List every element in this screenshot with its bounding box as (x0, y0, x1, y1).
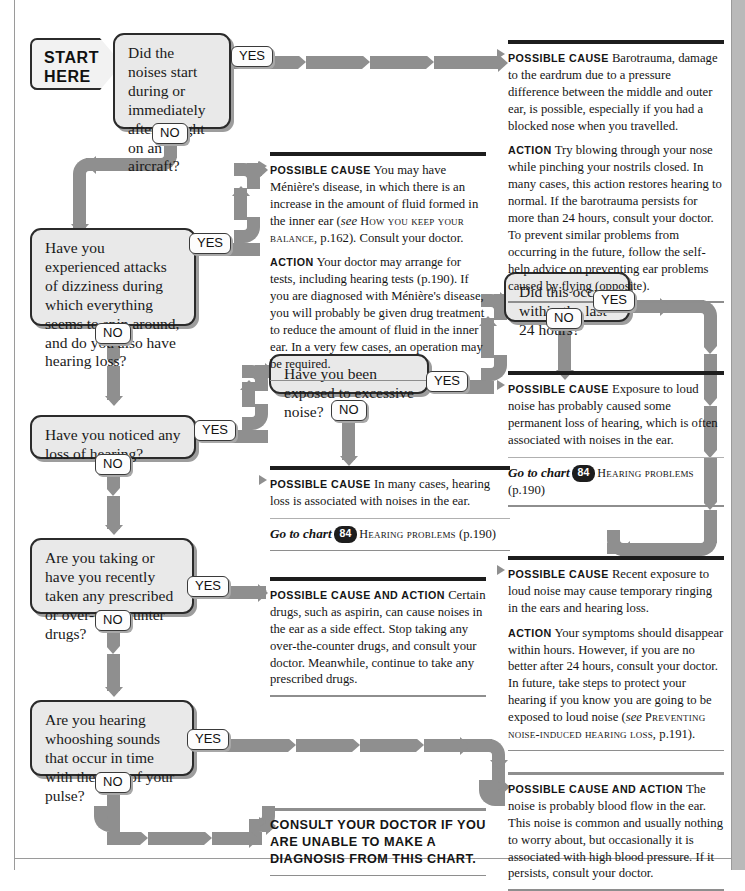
question-box-whooshing[interactable]: Are you hearing whooshing sounds that oc… (30, 700, 194, 776)
connector-q6-no (342, 418, 355, 460)
connector-notch (106, 646, 120, 654)
action-text: Try blowing through your nose while pinc… (508, 143, 722, 292)
connector-arrowhead (249, 830, 259, 848)
answer-label: YES (434, 373, 460, 388)
connector-arrowhead (105, 525, 123, 535)
question-box-flight[interactable]: Did the noises start during or immediate… (113, 33, 231, 129)
block-rule-mid (508, 457, 724, 458)
block-marker-icon (497, 781, 505, 791)
block-rule-bottom (508, 750, 724, 752)
question-text: Did the noises start during or immediate… (128, 44, 216, 176)
possible-cause-label: Possible cause and action (270, 589, 445, 601)
possible-cause-paragraph: Possible cause and action Certain drugs,… (270, 587, 486, 688)
connector-notch (362, 55, 370, 69)
answer-no-q5[interactable]: NO (95, 772, 131, 793)
action-label: Action (270, 256, 314, 268)
question-box-drugs[interactable]: Are you taking or have you recently take… (30, 538, 194, 614)
block-marker-icon (259, 586, 267, 596)
page-rule-left (14, 0, 15, 870)
possible-cause-paragraph: Possible cause Recent exposure to loud n… (508, 566, 724, 617)
answer-label: NO (554, 310, 574, 325)
see-word: see (626, 710, 642, 724)
answer-label: YES (601, 292, 627, 307)
action-paragraph: Action Try blowing through your nose whi… (508, 142, 724, 294)
connector-notch (426, 55, 434, 69)
connector-notch (288, 738, 296, 752)
answer-no-q1[interactable]: NO (152, 123, 188, 144)
answer-no-q3[interactable]: NO (95, 454, 131, 475)
possible-cause-text: Certain drugs, such as aspirin, can caus… (270, 588, 485, 686)
start-line-1: START (44, 49, 99, 66)
answer-yes-q5[interactable]: YES (187, 729, 229, 750)
connector-q1-no-v2 (73, 176, 86, 228)
block-marker-icon (497, 565, 505, 575)
answer-no-q6[interactable]: NO (331, 400, 367, 421)
chart-number-badge[interactable]: 84 (572, 465, 596, 482)
block-marker-icon (259, 475, 267, 485)
answer-label: YES (239, 48, 265, 63)
chart-number-badge[interactable]: 84 (334, 526, 358, 543)
see-word: see (341, 214, 357, 228)
goto-chart-paragraph: Go to chart84Hearing problems (p.190) (270, 525, 510, 543)
consult-text: Consult your doctor if you are unable to… (270, 817, 486, 868)
answer-yes-q3[interactable]: YES (194, 420, 236, 441)
action-label: Action (508, 144, 552, 156)
answer-label: NO (103, 612, 123, 627)
answer-no-q2[interactable]: NO (95, 323, 131, 344)
page-rule-right (731, 0, 732, 870)
possible-cause-label: Possible cause (508, 52, 609, 64)
block-rule-bottom (270, 875, 486, 877)
connector-elbow (242, 404, 268, 430)
block-marker-icon (259, 161, 267, 171)
chart-title: Hearing problems (359, 527, 456, 541)
advice-block-blood-flow: Possible cause and action The noise is p… (508, 772, 724, 891)
goto-chart-paragraph: Go to chart84Hearing problems(p.190) (508, 464, 724, 499)
action-text-end: p.191). (656, 727, 695, 741)
connector-notch (106, 488, 120, 496)
block-rule-bottom (270, 550, 510, 552)
question-box-hearing-loss[interactable]: Have you noticed any loss of hearing? (30, 415, 196, 459)
block-marker-icon (497, 49, 505, 59)
answer-yes-q6[interactable]: YES (426, 371, 468, 392)
answer-yes-q1[interactable]: YES (231, 46, 273, 67)
action-label: Action (508, 627, 552, 639)
chart-page: (p.190) (459, 527, 496, 541)
connector-notch (298, 55, 306, 69)
connector-arrowhead (340, 456, 358, 466)
answer-label: NO (103, 325, 123, 340)
block-rule-bottom (270, 695, 486, 697)
connector-notch (703, 346, 717, 354)
page-edge-band (732, 0, 745, 870)
block-rule-top (508, 772, 724, 775)
answer-yes-q4[interactable]: YES (187, 576, 229, 597)
connector-notch (140, 831, 148, 845)
block-rule-top (270, 466, 510, 470)
block-marker-icon (259, 817, 267, 827)
answer-label: YES (202, 422, 228, 437)
possible-cause-label: Possible cause (508, 568, 609, 580)
answer-yes-q2[interactable]: YES (189, 233, 231, 254)
answer-no-q4[interactable]: NO (95, 610, 131, 631)
possible-cause-text-end: p.162). Consult your doctor. (317, 231, 463, 245)
question-box-dizziness[interactable]: Have you experienced attacks of dizzines… (30, 228, 196, 326)
chart-title: Hearing problems (597, 466, 694, 480)
connector-q5-no-h (107, 832, 262, 845)
block-rule-top (508, 371, 724, 375)
action-text: Your doctor may arrange for tests, inclu… (270, 255, 484, 370)
answer-yes-q7[interactable]: YES (593, 290, 635, 311)
connector-q7-yes-v2 (607, 543, 620, 554)
connector-arrowhead (105, 687, 123, 697)
connector-notch (204, 831, 212, 845)
start-line-2: HERE (44, 68, 91, 85)
block-rule-mid (270, 518, 510, 519)
advice-block-consult: Consult your doctor if you are unable to… (270, 808, 486, 876)
block-rule-top (508, 40, 724, 44)
answer-no-q7[interactable]: NO (546, 308, 582, 329)
possible-cause-label: Possible cause and action (508, 783, 683, 795)
answer-label: YES (195, 731, 221, 746)
possible-cause-paragraph: Possible cause In many cases, hearing lo… (270, 476, 510, 510)
action-paragraph: Action Your symptoms should disappear wi… (508, 625, 724, 743)
connector-elbow (234, 217, 260, 243)
question-text: Have you experienced attacks of dizzines… (45, 239, 181, 371)
